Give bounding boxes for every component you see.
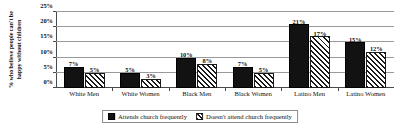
bar-value-label: 3% — [146, 72, 156, 79]
legend-label-doesnt-attend: Doesn't attend church frequently — [206, 113, 292, 120]
bar-value-label: 17% — [314, 30, 327, 37]
bar-group: 7%5% — [225, 12, 281, 88]
legend-item-attends: Attends church frequently — [108, 113, 187, 120]
legend-swatch-hatch-icon — [196, 113, 203, 120]
y-axis-tick-label: 10% — [40, 47, 56, 54]
bar: 12% — [366, 52, 386, 88]
y-axis-tick-label: 20% — [40, 17, 56, 24]
bar-value-label: 7% — [238, 60, 248, 67]
y-axis-tick-label: 5% — [43, 62, 56, 69]
bar: 8% — [197, 64, 217, 88]
bar-value-label: 15% — [349, 36, 362, 43]
bar: 5% — [85, 73, 105, 88]
x-axis-category-label: White Men — [56, 90, 112, 102]
x-axis-category-label: Black Women — [225, 90, 281, 102]
bar: 7% — [233, 67, 253, 88]
bar-value-label: 7% — [69, 60, 79, 67]
bar: 21% — [289, 24, 309, 88]
bar-group: 15%12% — [338, 12, 394, 88]
x-axis-category-label: White Women — [112, 90, 168, 102]
bar: 17% — [310, 36, 330, 88]
x-axis-labels: White MenWhite WomenBlack MenBlack Women… — [56, 90, 394, 102]
bar-chart: % who believe people can't be happy with… — [0, 0, 400, 133]
y-axis-title-line2: happy without children — [15, 12, 23, 89]
bar: 3% — [141, 79, 161, 88]
bar-group: 21%17% — [281, 12, 337, 88]
bar-groups: 7%5%5%3%10%8%7%5%21%17%15%12% — [56, 12, 394, 88]
y-axis-title: % who believe people can't be happy with… — [0, 0, 30, 100]
bar-value-label: 5% — [90, 66, 100, 73]
bar-group: 5%3% — [112, 12, 168, 88]
bar-group: 7%5% — [56, 12, 112, 88]
legend-label-attends: Attends church frequently — [118, 113, 187, 120]
bar-group: 10%8% — [169, 12, 225, 88]
bar-value-label: 12% — [370, 45, 383, 52]
bar-value-label: 21% — [293, 18, 306, 25]
legend-item-doesnt-attend: Doesn't attend church frequently — [196, 113, 292, 120]
bar: 15% — [345, 42, 365, 88]
bar-value-label: 5% — [125, 66, 135, 73]
y-axis-tick-label: 15% — [40, 32, 56, 39]
y-axis-tick-label: 0% — [43, 78, 56, 85]
bar: 5% — [254, 73, 274, 88]
legend-swatch-solid-icon — [108, 113, 115, 120]
bar-value-label: 8% — [203, 57, 213, 64]
legend: Attends church frequently Doesn't attend… — [102, 110, 298, 123]
bar-value-label: 5% — [259, 66, 269, 73]
bar-value-label: 10% — [180, 51, 193, 58]
bar: 7% — [64, 67, 84, 88]
x-axis-category-label: Black Men — [169, 90, 225, 102]
bar: 5% — [120, 73, 140, 88]
plot-area: 0%5%10%15%20%25% 7%5%5%3%10%8%7%5%21%17%… — [56, 12, 394, 88]
x-axis-category-label: Latino Men — [281, 90, 337, 102]
y-axis-tick-label: 25% — [40, 2, 56, 9]
y-axis-title-line1: % who believe people can't be — [7, 12, 15, 89]
bar: 10% — [176, 58, 196, 88]
x-axis-category-label: Latino Women — [338, 90, 394, 102]
